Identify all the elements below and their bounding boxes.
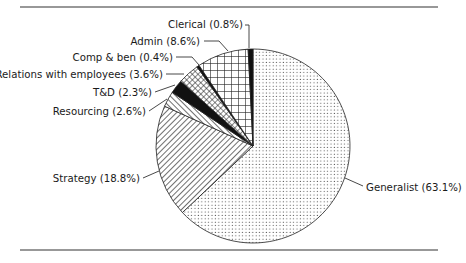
slice-label: Strategy (18.8%): [53, 173, 140, 184]
slice-label: Clerical (0.8%): [168, 19, 243, 30]
pie-chart: Generalist (63.1%)Strategy (18.8%)Resour…: [0, 0, 466, 263]
leader-line: [143, 171, 159, 178]
pie-slices: [156, 49, 350, 243]
leader-line: [245, 25, 249, 48]
leader-line: [176, 57, 199, 65]
leader-line: [345, 178, 363, 186]
slice-label: Comp & ben (0.4%): [73, 52, 173, 63]
slice-label: Relations with employees (3.6%): [0, 69, 163, 80]
slice-label: Generalist (63.1%): [366, 182, 462, 193]
slice-label: T&D (2.3%): [92, 87, 152, 98]
slice-label: Admin (8.6%): [130, 36, 200, 47]
leader-line: [204, 41, 228, 51]
leader-line: [155, 85, 175, 92]
slice-label: Resourcing (2.6%): [53, 106, 146, 117]
